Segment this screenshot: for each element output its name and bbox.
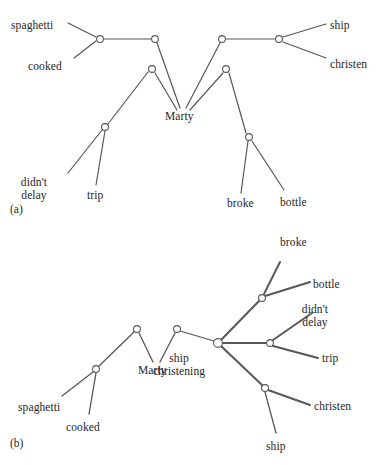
- node-b-upper: [259, 295, 266, 302]
- label-cooked: cooked: [28, 60, 62, 73]
- edge-a8-bottle: [252, 141, 284, 190]
- edge-b-upper-bottle: [265, 282, 310, 296]
- edge-b-peak1-left: [99, 332, 134, 366]
- edge-a7-didnt: [68, 130, 102, 173]
- node-a8: [246, 134, 253, 141]
- edge-b-root-lower: [221, 346, 262, 385]
- label-spaghetti: spaghetti: [18, 401, 60, 414]
- edge-a2-marty: [157, 43, 180, 108]
- label-ship-bottom: ship: [266, 440, 286, 453]
- edge-a3-marty: [186, 43, 220, 108]
- edge-b-lower-ship: [265, 392, 276, 433]
- label-ship: ship: [330, 19, 350, 32]
- node-a7: [102, 124, 109, 131]
- label-didnt-delay: didn't delay: [21, 176, 47, 201]
- edge-a5-a7: [108, 72, 148, 124]
- figure-container: spaghetticookedshipchristenMartydidn't d…: [0, 0, 386, 465]
- label-marty: Marty: [138, 364, 167, 377]
- node-a2: [152, 36, 159, 43]
- node-a5: [149, 66, 156, 73]
- label-trip: trip: [322, 352, 338, 365]
- node-b-right: [267, 340, 274, 347]
- edge-a8-broke: [241, 141, 248, 193]
- node-a1: [97, 36, 104, 43]
- edge-a7-trip: [96, 131, 105, 185]
- label-bottle: bottle: [313, 278, 340, 291]
- edge-b-peak2-root: [180, 331, 214, 341]
- label-broke: broke: [227, 197, 254, 210]
- edge-b-lower-christen: [268, 390, 310, 405]
- node-b-lower: [262, 385, 269, 392]
- node-b-peak1: [134, 326, 141, 333]
- edge-b-root-upper: [221, 301, 259, 340]
- node-a6: [223, 66, 230, 73]
- edge-b-peak1-marty: [139, 333, 153, 362]
- label-christen: christen: [314, 400, 351, 413]
- label-didnt-delay: didn't delay: [302, 303, 328, 328]
- label-spaghetti: spaghetti: [11, 19, 53, 32]
- label-broke: broke: [280, 236, 307, 249]
- edge-b-right-trip: [273, 346, 318, 358]
- edge-christen: [283, 42, 326, 58]
- panel-b-graph: [62, 262, 318, 433]
- edge-cooked: [74, 41, 96, 58]
- panel-a-graph: [68, 23, 326, 193]
- panel-tag-b: (b): [10, 437, 23, 449]
- node-a3: [219, 36, 226, 43]
- edge-b-upper-broke: [264, 262, 280, 294]
- label-christen: christen: [330, 58, 367, 71]
- node-b-peak2: [174, 326, 181, 333]
- edge-a6-a8: [229, 73, 246, 133]
- label-bottle: bottle: [280, 196, 307, 209]
- label-cooked: cooked: [66, 421, 100, 434]
- edge-b-left-spaghetti: [62, 372, 93, 396]
- edge-spaghetti: [68, 23, 96, 37]
- label-trip: trip: [87, 189, 103, 202]
- label-marty: Marty: [165, 110, 194, 123]
- edge-b-left-cooked: [89, 373, 96, 414]
- edge-ship: [283, 24, 326, 37]
- node-b-left: [93, 366, 100, 373]
- node-a4: [276, 36, 283, 43]
- node-b-root: [214, 339, 223, 348]
- panel-tag-a: (a): [10, 203, 23, 215]
